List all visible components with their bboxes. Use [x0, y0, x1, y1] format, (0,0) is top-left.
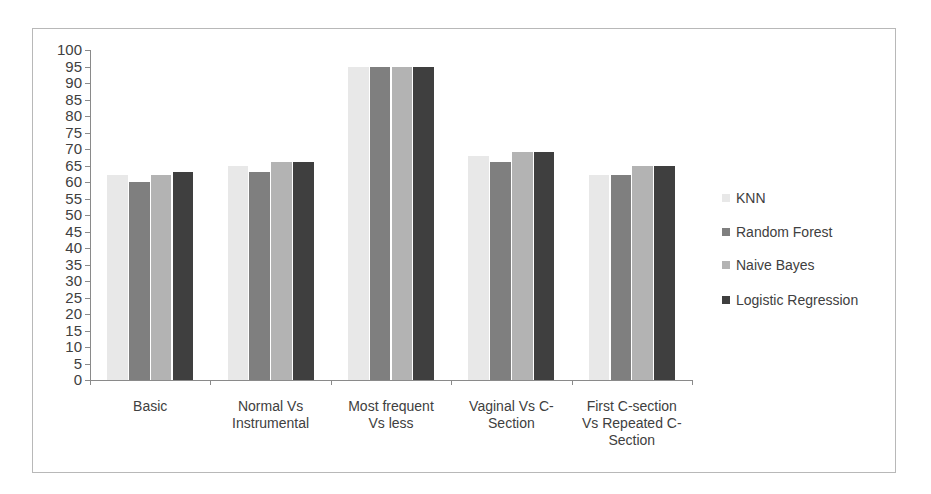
legend-label: Random Forest [736, 224, 832, 240]
bar-random-forest [129, 182, 150, 380]
bar-knn [468, 156, 489, 380]
bar-knn [589, 175, 610, 380]
y-tick [85, 314, 90, 315]
y-tick [85, 116, 90, 117]
y-tick [85, 265, 90, 266]
y-tick-label: 80 [34, 108, 82, 123]
bar-logistic-regression [293, 162, 314, 380]
y-tick-label: 85 [34, 92, 82, 107]
x-category-label: First C-sectionVs Repeated C-Section [562, 398, 702, 449]
y-tick-label: 45 [34, 224, 82, 239]
y-tick [85, 364, 90, 365]
bar-logistic-regression [534, 152, 555, 380]
x-category-label: Most frequentVs less [321, 398, 461, 432]
x-tick [572, 380, 573, 385]
y-tick-label: 40 [34, 240, 82, 255]
y-tick [85, 331, 90, 332]
y-tick [85, 182, 90, 183]
y-tick [85, 347, 90, 348]
x-category-label: Basic [80, 398, 220, 415]
y-tick [85, 133, 90, 134]
bar-random-forest [490, 162, 511, 380]
y-tick [85, 248, 90, 249]
y-tick-label: 15 [34, 323, 82, 338]
y-tick [85, 281, 90, 282]
bar-logistic-regression [413, 67, 434, 381]
y-tick-label: 35 [34, 257, 82, 272]
y-tick-label: 100 [34, 42, 82, 57]
x-tick [692, 380, 693, 385]
x-tick [90, 380, 91, 385]
y-tick-label: 10 [34, 339, 82, 354]
y-tick-label: 75 [34, 125, 82, 140]
bar-random-forest [611, 175, 632, 380]
bar-knn [107, 175, 128, 380]
y-tick [85, 50, 90, 51]
bar-naive-bayes [632, 166, 653, 381]
legend-label: Naive Bayes [736, 257, 815, 273]
y-tick-label: 50 [34, 207, 82, 222]
y-tick-label: 90 [34, 75, 82, 90]
y-tick-label: 95 [34, 59, 82, 74]
y-tick [85, 298, 90, 299]
y-tick [85, 232, 90, 233]
y-tick-label: 65 [34, 158, 82, 173]
y-tick-label: 55 [34, 191, 82, 206]
legend-label: KNN [736, 190, 766, 206]
bar-naive-bayes [151, 175, 172, 380]
legend-swatch [722, 261, 730, 269]
y-tick [85, 67, 90, 68]
bar-random-forest [249, 172, 270, 380]
y-tick [85, 166, 90, 167]
y-tick-label: 30 [34, 273, 82, 288]
y-tick-label: 5 [34, 356, 82, 371]
legend-swatch [722, 296, 730, 304]
y-tick-label: 60 [34, 174, 82, 189]
y-tick [85, 100, 90, 101]
y-tick [85, 149, 90, 150]
legend-item-random-forest: Random Forest [722, 224, 832, 240]
x-category-label: Normal VsInstrumental [201, 398, 341, 432]
y-tick [85, 215, 90, 216]
x-tick [331, 380, 332, 385]
bar-random-forest [370, 67, 391, 381]
y-tick-label: 70 [34, 141, 82, 156]
legend-item-logistic-regression: Logistic Regression [722, 292, 858, 308]
bar-logistic-regression [654, 166, 675, 381]
legend-item-knn: KNN [722, 190, 766, 206]
x-axis [90, 380, 693, 381]
x-category-label: Vaginal Vs C-Section [441, 398, 581, 432]
y-tick [85, 83, 90, 84]
y-axis [90, 50, 91, 381]
y-tick-label: 25 [34, 290, 82, 305]
y-tick-label: 0 [34, 372, 82, 387]
legend-label: Logistic Regression [736, 292, 858, 308]
x-tick [210, 380, 211, 385]
bar-naive-bayes [392, 67, 413, 381]
x-tick [451, 380, 452, 385]
bar-logistic-regression [173, 172, 194, 380]
bar-knn [348, 67, 369, 381]
bar-naive-bayes [512, 152, 533, 380]
legend-swatch [722, 228, 730, 236]
legend-item-naive-bayes: Naive Bayes [722, 257, 815, 273]
y-tick-label: 20 [34, 306, 82, 321]
bar-naive-bayes [271, 162, 292, 380]
y-tick [85, 199, 90, 200]
legend-swatch [722, 194, 730, 202]
bar-knn [228, 166, 249, 381]
